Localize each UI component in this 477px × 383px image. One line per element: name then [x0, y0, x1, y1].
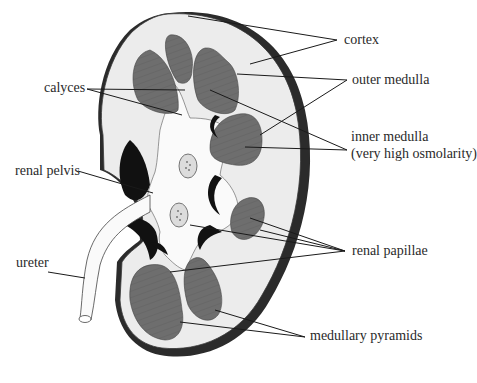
label-inner-medulla-note: (very high osmolarity)	[351, 145, 477, 162]
label-renal-pelvis: renal pelvis	[15, 162, 80, 179]
label-calyces: calyces	[44, 79, 85, 96]
label-ureter: ureter	[16, 254, 49, 271]
label-outer-medulla: outer medulla	[352, 71, 429, 88]
label-medullary-pyramids: medullary pyramids	[310, 327, 422, 344]
label-renal-papillae: renal papillae	[352, 242, 428, 259]
label-inner-medulla: inner medulla	[351, 128, 428, 145]
label-cortex: cortex	[344, 31, 379, 48]
